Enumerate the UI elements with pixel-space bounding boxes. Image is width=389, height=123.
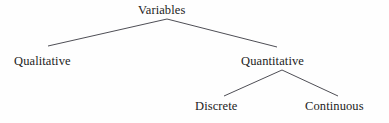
node-variables: Variables [138, 3, 185, 17]
node-continuous: Continuous [305, 99, 364, 113]
edge-variables-quantitative [167, 19, 277, 47]
edge-quantitative-discrete [224, 70, 282, 96]
node-discrete: Discrete [195, 99, 237, 113]
variables-tree-diagram: Variables Qualitative Quantitative Discr… [0, 0, 389, 123]
node-quantitative: Quantitative [241, 54, 304, 68]
edge-variables-qualitative [48, 19, 167, 46]
edge-quantitative-continuous [282, 70, 338, 96]
node-qualitative: Qualitative [14, 54, 71, 68]
